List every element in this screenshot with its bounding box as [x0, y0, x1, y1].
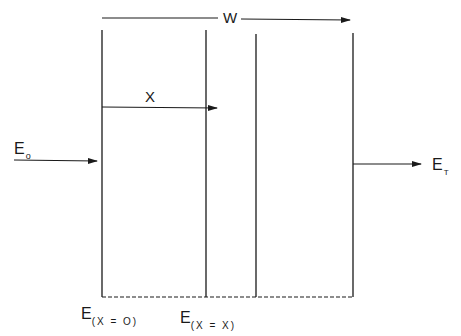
incident-field-sub: o: [26, 151, 31, 161]
depth-field-label: E(X = X): [180, 310, 236, 326]
diagram-lines: [0, 0, 461, 336]
surface-field-label: E(X = O): [81, 306, 138, 322]
width-arrow-right: [241, 19, 350, 20]
incident-field-label: Eo: [14, 141, 31, 157]
surface-field-main: E: [81, 305, 92, 322]
diagram-canvas: W X Eo ET E(X = O) E(X = X): [0, 0, 461, 336]
depth-arrow: [102, 107, 217, 108]
incident-field-main: E: [14, 140, 25, 157]
depth-field-sub: (X = X): [191, 320, 236, 331]
transmitted-field-label: ET: [432, 157, 449, 173]
transmitted-field-sub: T: [444, 168, 449, 177]
width-label: W: [223, 10, 237, 25]
surface-field-sub: (X = O): [92, 316, 139, 327]
transmitted-field-main: E: [432, 156, 443, 173]
depth-field-main: E: [180, 309, 191, 326]
depth-label: X: [145, 89, 155, 104]
